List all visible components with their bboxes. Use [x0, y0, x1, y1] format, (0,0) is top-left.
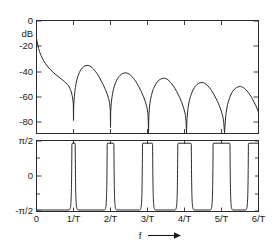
phase-ytick-minus-pi-half: -π/2 — [15, 205, 33, 216]
magnitude-ytick-minus20: -20 — [19, 40, 33, 51]
phase-ytick-zero: 0 — [28, 170, 33, 181]
two-panel-bode-plot: 0 -20 -40 -60 -80 dB — [0, 0, 277, 249]
phase-panel-frame — [37, 141, 259, 212]
magnitude-ytick-minus80: -80 — [19, 116, 33, 127]
xtick-3-over-T: 3/T — [141, 213, 155, 224]
phase-response-curve — [37, 143, 259, 210]
phase-x-ticks — [74, 141, 222, 212]
magnitude-y-ticks — [37, 21, 259, 122]
xaxis-label: f — [139, 230, 142, 241]
phase-ytick-pi-half: π/2 — [19, 135, 33, 146]
magnitude-x-ticks — [74, 21, 222, 134]
magnitude-ytick-0: 0 — [28, 15, 33, 26]
xaxis-arrow-icon — [148, 232, 181, 238]
magnitude-ytick-minus40: -40 — [19, 66, 33, 77]
figure-container: 0 -20 -40 -60 -80 dB — [0, 0, 277, 249]
magnitude-panel-frame — [37, 21, 259, 134]
xtick-4-over-T: 4/T — [178, 213, 192, 224]
magnitude-response-curve — [37, 38, 259, 133]
xtick-0: 0 — [34, 213, 39, 224]
xtick-2-over-T: 2/T — [104, 213, 118, 224]
xtick-5-over-T: 5/T — [215, 213, 229, 224]
magnitude-axis-label: dB — [21, 28, 33, 39]
phase-y-ticks — [37, 141, 259, 211]
magnitude-ytick-minus60: -60 — [19, 91, 33, 102]
xtick-1-over-T: 1/T — [67, 213, 81, 224]
xtick-6-over-T: 6/T — [252, 213, 266, 224]
